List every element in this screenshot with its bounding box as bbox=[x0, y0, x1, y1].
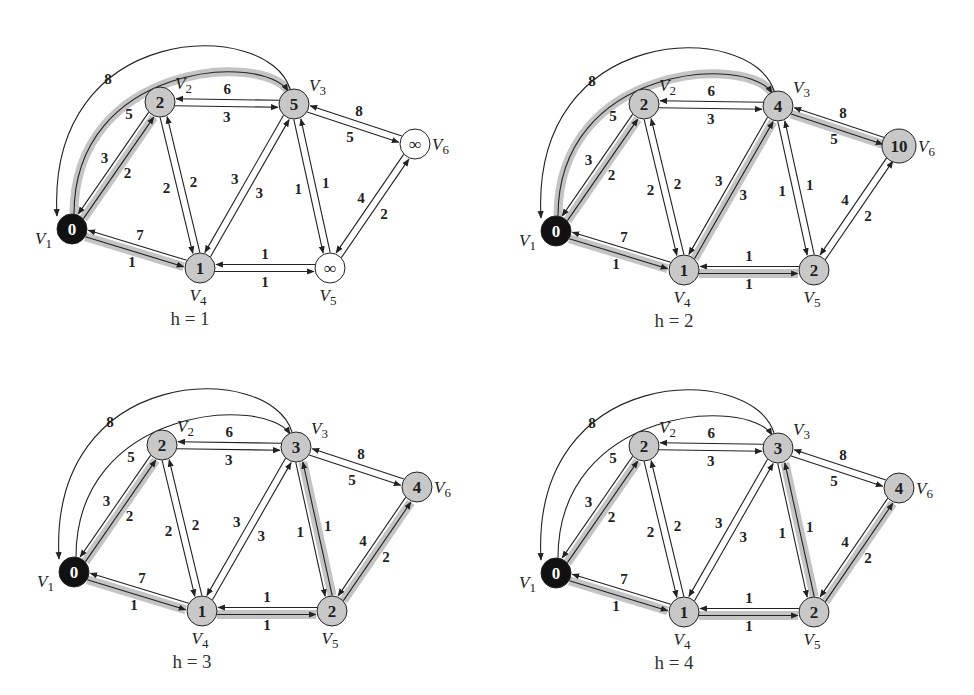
edge-weight-e45: 1 bbox=[745, 276, 753, 292]
edge-e34 bbox=[689, 117, 768, 254]
edge-weight-e13: 5 bbox=[609, 108, 617, 124]
edge-weight-e32: 6 bbox=[707, 83, 715, 99]
edge-e32 bbox=[660, 443, 763, 445]
vertex-label-v3: V3 bbox=[793, 420, 810, 442]
distance-v5: ∞ bbox=[324, 259, 336, 278]
edge-weight-e35: 1 bbox=[779, 183, 787, 199]
edge-weight-e65: 4 bbox=[359, 533, 367, 549]
distance-v2: 2 bbox=[156, 93, 165, 112]
distance-v6: 4 bbox=[413, 478, 422, 497]
edge-weight-e12: 2 bbox=[126, 508, 134, 524]
edge-weight-e41: 7 bbox=[138, 570, 146, 586]
edge-weight-e13: 5 bbox=[125, 106, 133, 122]
vertex-label-v5: V5 bbox=[804, 288, 821, 310]
distance-v4: 1 bbox=[680, 603, 689, 622]
edge-weight-e34: 3 bbox=[715, 173, 723, 189]
edge-e23 bbox=[659, 108, 762, 110]
edge-weight-e14: 1 bbox=[612, 256, 620, 272]
edge-e32 bbox=[176, 99, 279, 101]
edge-weight-e34: 3 bbox=[715, 515, 723, 531]
edge-weight-e43: 3 bbox=[255, 185, 263, 201]
edge-weight-e43: 3 bbox=[739, 529, 747, 545]
edge-e21 bbox=[80, 455, 150, 557]
edge-weight-e24: 2 bbox=[647, 524, 655, 540]
edge-weight-e56: 2 bbox=[380, 206, 388, 222]
edge-weight-e41: 7 bbox=[620, 571, 628, 587]
edge-weight-e53: 1 bbox=[324, 518, 332, 534]
edge-e43 bbox=[212, 463, 291, 600]
edge-weight-e45: 1 bbox=[263, 617, 271, 633]
vertex-label-v4: V4 bbox=[192, 629, 209, 651]
edge-weight-e21: 3 bbox=[101, 150, 109, 166]
edge-e12 bbox=[567, 461, 637, 563]
edge-weight-e63: 8 bbox=[839, 447, 847, 463]
graph-panel-h3: 582317362233115811240V12V23V31V42V54V6h … bbox=[37, 389, 451, 672]
edge-e65 bbox=[336, 154, 403, 252]
edge-weight-e34: 3 bbox=[233, 514, 241, 530]
edge-weight-e14: 1 bbox=[128, 254, 136, 270]
distance-v1: 0 bbox=[68, 220, 77, 239]
edge-weight-e63: 8 bbox=[839, 105, 847, 121]
edge-e56 bbox=[825, 161, 892, 259]
edge-weight-e56: 2 bbox=[382, 549, 390, 565]
edge-weight-e43: 3 bbox=[257, 528, 265, 544]
panel-caption: h = 1 bbox=[170, 308, 209, 329]
edge-e34 bbox=[207, 458, 286, 595]
edge-e65 bbox=[338, 497, 405, 595]
vertex-label-v1: V1 bbox=[519, 573, 536, 595]
highlight-layer bbox=[74, 72, 288, 267]
edge-weight-e41: 7 bbox=[620, 229, 628, 245]
edge-e43 bbox=[210, 120, 289, 257]
edge-weight-e35: 1 bbox=[779, 525, 787, 541]
panel-caption: h = 4 bbox=[654, 652, 694, 673]
vertex-label-v1: V1 bbox=[37, 572, 54, 594]
edge-weight-e65: 4 bbox=[841, 192, 849, 208]
vertex-label-v3: V3 bbox=[309, 76, 326, 98]
edge-e23 bbox=[659, 450, 762, 452]
edge-weight-e36: 5 bbox=[830, 473, 838, 489]
edge-weight-e54: 1 bbox=[745, 590, 753, 606]
edge-e65 bbox=[820, 156, 887, 254]
graph-panel-h1: 582317362233115811240V12V25V31V4∞V5∞V6h … bbox=[35, 46, 449, 329]
edge-e34 bbox=[689, 459, 768, 596]
edge-weight-e63: 8 bbox=[355, 103, 363, 119]
edge-weight-e21: 3 bbox=[585, 152, 593, 168]
diagram-canvas: 582317362233115811240V12V25V31V4∞V5∞V6h … bbox=[0, 0, 974, 695]
vertex-label-v3: V3 bbox=[793, 78, 810, 100]
edge-weight-e35: 1 bbox=[297, 524, 305, 540]
vertex-label-v2: V2 bbox=[177, 417, 194, 439]
edge-e21 bbox=[78, 112, 148, 214]
edge-weight-e36: 5 bbox=[346, 129, 354, 145]
graph-panel-h2: 582317362233115811240V12V24V31V42V510V6h… bbox=[519, 48, 935, 331]
edge-weight-e13: 5 bbox=[127, 449, 135, 465]
edge-weight-e63: 8 bbox=[357, 446, 365, 462]
edge-e56 bbox=[343, 502, 410, 600]
edge-weight-e23: 3 bbox=[223, 109, 231, 125]
edge-weight-e21: 3 bbox=[103, 493, 111, 509]
edge-weight-e56: 2 bbox=[864, 550, 872, 566]
edge-e43 bbox=[694, 464, 773, 601]
edge-weight-e32: 6 bbox=[707, 425, 715, 441]
vertex-label-v6: V6 bbox=[432, 135, 449, 157]
edge-weight-e34: 3 bbox=[231, 171, 239, 187]
edge-weight-e32: 6 bbox=[225, 424, 233, 440]
vertex-label-v4: V4 bbox=[190, 286, 207, 308]
edge-weight-e54: 1 bbox=[745, 248, 753, 264]
graph-panel-h4: 582317362233115811240V12V23V31V42V54V6h … bbox=[519, 390, 933, 673]
edge-weight-e42: 2 bbox=[192, 517, 200, 533]
edge-e32 bbox=[178, 442, 281, 444]
edge-weight-e12: 2 bbox=[124, 165, 132, 181]
distance-v2: 2 bbox=[158, 436, 167, 455]
vertex-label-v3: V3 bbox=[311, 419, 328, 441]
vertex-label-v6: V6 bbox=[918, 137, 935, 159]
distance-v1: 0 bbox=[552, 564, 561, 583]
edge-weight-e13: 5 bbox=[609, 450, 617, 466]
distance-v1: 0 bbox=[70, 563, 79, 582]
edge-weight-e56: 2 bbox=[864, 208, 872, 224]
vertex-label-v1: V1 bbox=[519, 231, 536, 253]
edge-weight-e23: 3 bbox=[707, 111, 715, 127]
edge-weight-e36: 5 bbox=[830, 131, 838, 147]
edge-e21 bbox=[562, 114, 632, 216]
distance-v5: 2 bbox=[810, 603, 819, 622]
vertex-label-v4: V4 bbox=[674, 288, 691, 310]
